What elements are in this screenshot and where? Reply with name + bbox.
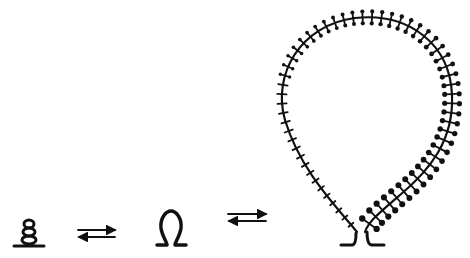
bristled-loop-icon <box>277 9 462 245</box>
coiled-form-icon <box>14 220 44 246</box>
diagram-canvas <box>0 0 470 258</box>
equilibrium-arrow-2-icon <box>228 214 266 221</box>
omega-loop-icon <box>157 211 186 245</box>
equilibrium-arrow-1-icon <box>78 230 115 237</box>
